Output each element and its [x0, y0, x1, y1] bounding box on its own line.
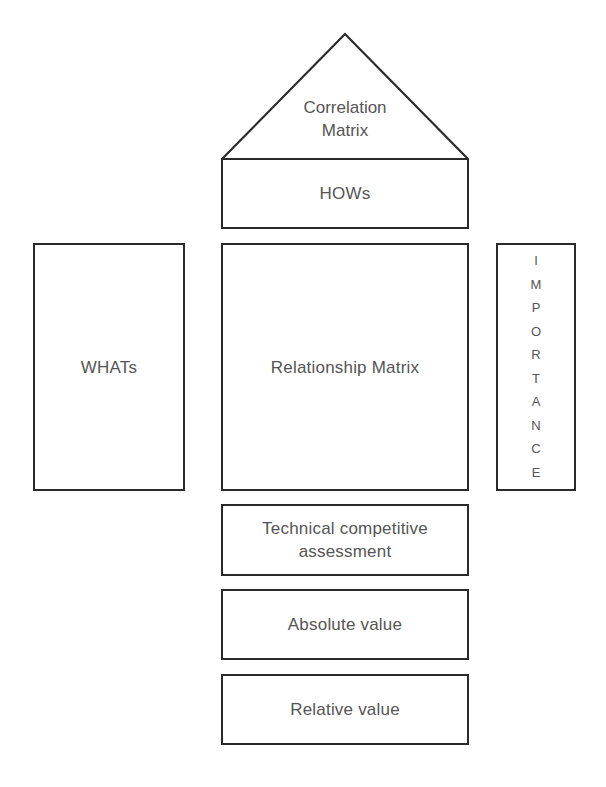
importance-letter: A — [532, 390, 541, 414]
whats-box: WHATs — [33, 243, 185, 491]
technical-label-line1: Technical competitive — [262, 517, 428, 540]
relationship-matrix-box: Relationship Matrix — [221, 243, 469, 491]
importance-letter: N — [531, 414, 540, 438]
whats-label: WHATs — [81, 356, 137, 379]
importance-letter: T — [532, 367, 540, 391]
relative-value-label: Relative value — [290, 698, 400, 721]
importance-box: I M P O R T A N C E — [496, 243, 576, 491]
correlation-label-line1: Correlation — [222, 96, 468, 119]
technical-assessment-box: Technical competitive assessment — [221, 504, 469, 576]
importance-letter: P — [532, 296, 541, 320]
hows-box: HOWs — [221, 158, 469, 229]
absolute-value-box: Absolute value — [221, 589, 469, 660]
house-of-quality-diagram: Correlation Matrix HOWs WHATs Relationsh… — [0, 0, 606, 787]
relationship-matrix-label: Relationship Matrix — [271, 356, 419, 379]
relative-value-box: Relative value — [221, 674, 469, 745]
correlation-label-line2: Matrix — [222, 119, 468, 142]
technical-label-line2: assessment — [299, 540, 392, 563]
importance-letter: M — [531, 273, 542, 297]
importance-letter: C — [531, 437, 540, 461]
absolute-value-label: Absolute value — [288, 613, 402, 636]
hows-label: HOWs — [320, 182, 371, 205]
importance-letter: R — [531, 343, 540, 367]
importance-letter: O — [531, 320, 541, 344]
importance-letter: I — [534, 249, 538, 273]
importance-letter: E — [532, 461, 541, 485]
correlation-matrix-label: Correlation Matrix — [222, 96, 468, 142]
